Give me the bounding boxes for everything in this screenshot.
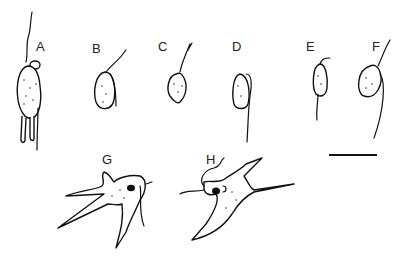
cell-a bbox=[17, 12, 40, 150]
cell-d bbox=[233, 74, 251, 142]
cell-c bbox=[168, 43, 192, 103]
cell-h bbox=[180, 158, 294, 240]
cell-e bbox=[313, 58, 330, 120]
cells-drawing bbox=[0, 0, 402, 256]
protist-illustration: A B C D E F G H bbox=[0, 0, 402, 256]
cell-f bbox=[359, 40, 390, 138]
cell-b bbox=[95, 50, 126, 109]
cell-g bbox=[58, 172, 152, 248]
